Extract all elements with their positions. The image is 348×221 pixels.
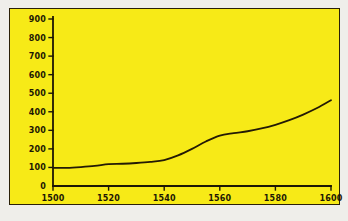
x-tick-label: 1600 xyxy=(319,194,342,203)
y-tick-label: 100 xyxy=(20,163,46,172)
y-tick-label: 200 xyxy=(20,144,46,153)
x-tick-label: 1560 xyxy=(208,194,231,203)
x-tick-label: 1500 xyxy=(41,194,64,203)
x-tick-label: 1520 xyxy=(97,194,120,203)
y-tick-label: 800 xyxy=(20,33,46,42)
chart-screenshot: 0100200300400500600700800900 15001520154… xyxy=(0,0,348,221)
y-tick-label: 700 xyxy=(20,52,46,61)
y-tick-label: 400 xyxy=(20,107,46,116)
x-tick-label: 1580 xyxy=(264,194,287,203)
y-tick-label: 300 xyxy=(20,126,46,135)
y-tick-label: 500 xyxy=(20,89,46,98)
bottom-margin-strip xyxy=(0,205,348,221)
chart-panel xyxy=(9,8,340,205)
y-tick-label: 0 xyxy=(20,182,46,191)
y-tick-label: 600 xyxy=(20,70,46,79)
x-tick-label: 1540 xyxy=(153,194,176,203)
y-tick-label: 900 xyxy=(20,15,46,24)
